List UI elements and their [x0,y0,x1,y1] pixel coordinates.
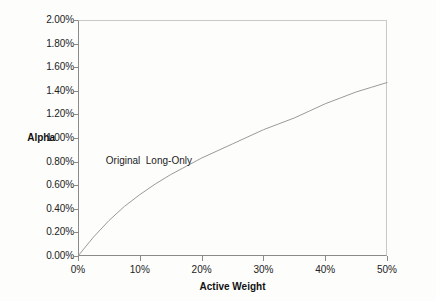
y-tick-label: 1.80% [14,39,74,49]
y-tick-label: 0.20% [14,227,74,237]
y-tick-mark [73,209,78,210]
y-tick-label: 1.60% [14,62,74,72]
y-tick-label: 1.40% [14,86,74,96]
y-tick-label: 0.80% [14,157,74,167]
y-tick-mark [73,20,78,21]
y-tick-label: 2.00% [14,15,74,25]
y-tick-mark [73,138,78,139]
x-tick-label: 0% [58,265,98,275]
y-tick-mark [73,185,78,186]
x-tick-mark [387,256,388,261]
y-tick-mark [73,91,78,92]
x-tick-mark [140,256,141,261]
y-tick-mark [73,67,78,68]
x-tick-mark [325,256,326,261]
y-axis-title: Alpha [9,133,55,143]
x-tick-label: 20% [182,265,222,275]
y-tick-label: 1.20% [14,109,74,119]
y-tick-label: 0.60% [14,180,74,190]
x-tick-label: 30% [243,265,283,275]
x-tick-label: 40% [305,265,345,275]
series-curve-original-long-only [78,20,387,256]
x-tick-label: 50% [367,265,407,275]
y-tick-mark [73,44,78,45]
y-tick-mark [73,162,78,163]
x-tick-label: 10% [120,265,160,275]
y-tick-mark [73,114,78,115]
x-tick-mark [78,256,79,261]
y-tick-mark [73,232,78,233]
x-axis-title: Active Weight [78,281,387,292]
chart-page: 0.00%0.20%0.40%0.60%0.80%1.00%1.20%1.40%… [0,0,436,301]
series-annotation-label: Original Long-Only [106,155,192,166]
y-axis-tick-labels: 0.00%0.20%0.40%0.60%0.80%1.00%1.20%1.40%… [8,0,74,301]
y-tick-label: 0.40% [14,204,74,214]
x-tick-mark [263,256,264,261]
x-tick-mark [202,256,203,261]
y-tick-label: 0.00% [14,251,74,261]
